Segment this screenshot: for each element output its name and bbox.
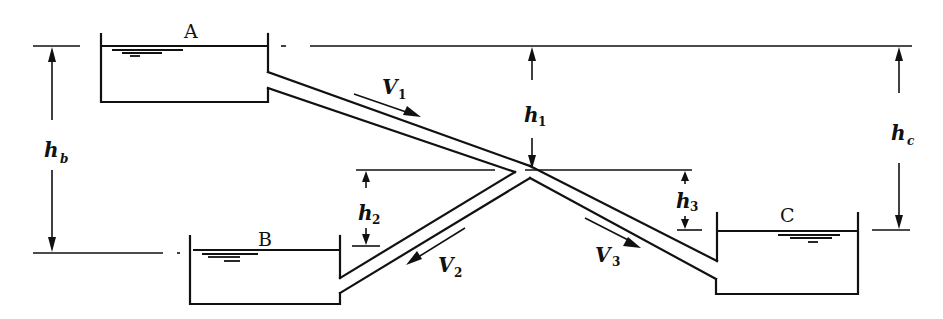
h3-symbol: h [676, 189, 691, 213]
v3-subscript: 3 [612, 255, 620, 269]
h3-subscript: 3 [690, 200, 698, 214]
velocity-arrow-v1: V 1 [354, 75, 421, 117]
dimension-h1: h 1 [524, 47, 546, 169]
reservoir-c: C [716, 204, 858, 294]
reservoir-a-label: A [183, 20, 198, 42]
reservoir-c-label: C [780, 204, 795, 226]
pipe-network-diagram: A B C V 1 [0, 0, 943, 319]
reservoir-b: B [190, 228, 340, 304]
hc-symbol: h [891, 121, 906, 145]
hb-subscript: b [60, 152, 68, 166]
velocity-arrow-v3: V 3 [585, 218, 641, 269]
dimension-h2: h 2 [358, 171, 380, 245]
reservoir-a: A [101, 20, 268, 102]
dimension-hc: h c [891, 47, 915, 229]
h1-subscript: 1 [538, 115, 546, 129]
h2-symbol: h [358, 201, 373, 225]
h1-symbol: h [524, 103, 539, 127]
v3-symbol: V [595, 243, 613, 267]
hb-symbol: h [44, 138, 59, 162]
dimension-h3: h 3 [676, 171, 698, 229]
dimension-hb: h b [44, 47, 68, 252]
v2-subscript: 2 [454, 266, 462, 280]
v1-subscript: 1 [398, 88, 406, 102]
h2-subscript: 2 [372, 213, 380, 227]
pipe-1 [268, 72, 530, 172]
reservoir-b-label: B [258, 228, 272, 250]
pipe-2 [340, 172, 530, 293]
pipe-3 [530, 166, 717, 279]
hc-subscript: c [907, 134, 915, 148]
